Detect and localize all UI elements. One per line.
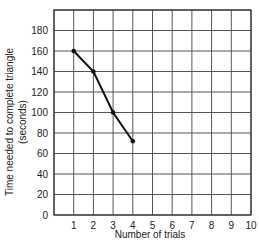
y-tick-label: 20 bbox=[37, 189, 49, 200]
x-tick-label: 7 bbox=[189, 220, 195, 231]
x-tick-label: 9 bbox=[229, 220, 235, 231]
y-axis-ticks: 020406080100120140160180 bbox=[31, 25, 48, 221]
y-tick-label: 0 bbox=[42, 210, 48, 221]
data-line bbox=[74, 51, 133, 141]
data-point bbox=[71, 49, 76, 54]
x-tick-label: 2 bbox=[91, 220, 97, 231]
y-tick-label: 80 bbox=[37, 128, 49, 139]
x-axis-label: Number of trials bbox=[115, 229, 186, 240]
y-tick-label: 140 bbox=[31, 66, 48, 77]
x-tick-label: 8 bbox=[209, 220, 215, 231]
data-point bbox=[91, 69, 96, 74]
y-tick-label: 120 bbox=[31, 87, 48, 98]
y-axis-label: Time needed to complete triangle bbox=[4, 48, 15, 196]
y-tick-label: 40 bbox=[37, 169, 49, 180]
y-axis-label-units: (seconds) bbox=[17, 100, 28, 144]
data-point bbox=[111, 110, 116, 115]
y-tick-label: 160 bbox=[31, 46, 48, 57]
y-tick-label: 60 bbox=[37, 148, 49, 159]
data-point bbox=[131, 139, 136, 144]
y-tick-label: 100 bbox=[31, 107, 48, 118]
grid-lines bbox=[54, 10, 251, 215]
x-tick-label: 1 bbox=[71, 220, 77, 231]
x-tick-label: 10 bbox=[245, 220, 257, 231]
y-tick-label: 180 bbox=[31, 25, 48, 36]
line-chart: 020406080100120140160180 12345678910 Num… bbox=[0, 0, 259, 249]
